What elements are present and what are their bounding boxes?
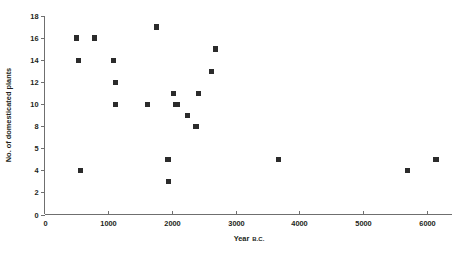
y-axis-ticks: 024581012141618 [30, 12, 44, 220]
y-tick-label: 4 [34, 166, 39, 175]
y-tick-label: 0 [34, 211, 38, 220]
data-point [111, 58, 116, 63]
data-point [166, 179, 171, 184]
y-tick-label: 14 [30, 56, 39, 65]
data-point [174, 102, 179, 107]
data-point [276, 157, 281, 162]
data-point [433, 157, 438, 162]
data-point [193, 124, 198, 129]
data-points-layer [74, 24, 439, 184]
data-point [185, 113, 190, 118]
plot-canvas: 024581012141618 010002000300040005000600… [0, 0, 459, 263]
y-tick-label: 5 [34, 144, 38, 153]
y-axis-title: No. of domesticated plants [4, 68, 13, 162]
data-point [154, 24, 159, 29]
x-tick-label: 5000 [355, 219, 371, 228]
data-point [92, 35, 97, 40]
scatter-plot-figure: 024581012141618 010002000300040005000600… [0, 0, 459, 263]
data-point [165, 157, 170, 162]
x-tick-label: 1000 [100, 219, 116, 228]
y-tick-label: 10 [30, 100, 38, 109]
y-tick-label: 12 [30, 78, 38, 87]
data-point [405, 168, 410, 173]
data-point [76, 58, 81, 63]
data-point [213, 46, 218, 51]
data-point [171, 91, 176, 96]
y-tick-label: 2 [34, 188, 38, 197]
x-axis-title: YearB.C. [234, 234, 265, 243]
data-point [74, 35, 79, 40]
data-point [113, 80, 118, 85]
x-tick-label: 4000 [291, 219, 307, 228]
y-tick-label: 18 [30, 12, 38, 21]
x-axis-ticks: 0100020003000400050006000 [43, 211, 435, 228]
x-tick-label: 6000 [419, 219, 435, 228]
axes-group [45, 16, 453, 215]
x-tick-label: 3000 [228, 219, 244, 228]
y-tick-label: 8 [34, 122, 38, 131]
data-point [209, 69, 214, 74]
data-point [196, 91, 201, 96]
y-tick-label: 16 [30, 34, 38, 43]
x-tick-label: 0 [43, 219, 47, 228]
data-point [145, 102, 150, 107]
x-tick-label: 2000 [164, 219, 180, 228]
data-point [113, 102, 118, 107]
data-point [78, 168, 83, 173]
